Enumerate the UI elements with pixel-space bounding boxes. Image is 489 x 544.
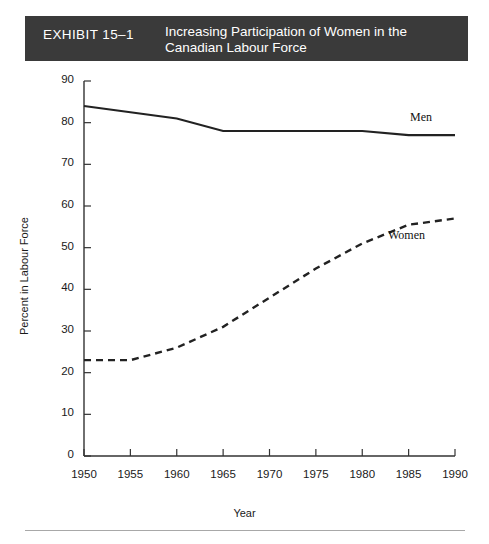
y-axis-ticks: [84, 81, 91, 456]
y-axis-tick-label: 0: [48, 448, 74, 460]
x-axis-tick-label: 1990: [433, 468, 477, 480]
series-line-men: [84, 106, 455, 135]
x-axis-tick-label: 1955: [108, 468, 152, 480]
exhibit-title: Increasing Participation of Women in the…: [165, 24, 460, 56]
y-axis-tick-label: 90: [48, 73, 74, 85]
x-axis-ticks: [84, 449, 455, 456]
x-axis-tick-label: 1950: [62, 468, 106, 480]
y-axis-title: Percent in Labour Force: [18, 196, 30, 356]
x-axis-title: Year: [0, 507, 489, 519]
y-axis-tick-label: 40: [48, 281, 74, 293]
exhibit-number-label: EXHIBIT 15–1: [43, 27, 134, 42]
y-axis-tick-label: 70: [48, 156, 74, 168]
x-axis-tick-label: 1970: [248, 468, 292, 480]
x-axis-tick-label: 1975: [294, 468, 338, 480]
x-axis-tick-label: 1985: [387, 468, 431, 480]
y-axis-tick-label: 50: [48, 240, 74, 252]
series-annotation-women: Women: [388, 228, 425, 243]
exhibit-header-banner: EXHIBIT 15–1 Increasing Participation of…: [25, 16, 468, 61]
exhibit-title-line-2: Canadian Labour Force: [165, 40, 460, 56]
y-axis-tick-label: 20: [48, 365, 74, 377]
y-axis-tick-label: 30: [48, 323, 74, 335]
bottom-divider-rule: [25, 530, 465, 531]
series-annotation-men: Men: [410, 110, 432, 125]
x-axis-tick-label: 1980: [340, 468, 384, 480]
y-axis-tick-label: 60: [48, 198, 74, 210]
chart-plot-area: Percent in Labour Force Year Men Women 0…: [0, 60, 489, 500]
exhibit-title-line-1: Increasing Participation of Women in the: [165, 24, 460, 40]
x-axis-tick-label: 1960: [155, 468, 199, 480]
y-axis-tick-label: 80: [48, 115, 74, 127]
y-axis-tick-label: 10: [48, 406, 74, 418]
x-axis-tick-label: 1965: [201, 468, 245, 480]
